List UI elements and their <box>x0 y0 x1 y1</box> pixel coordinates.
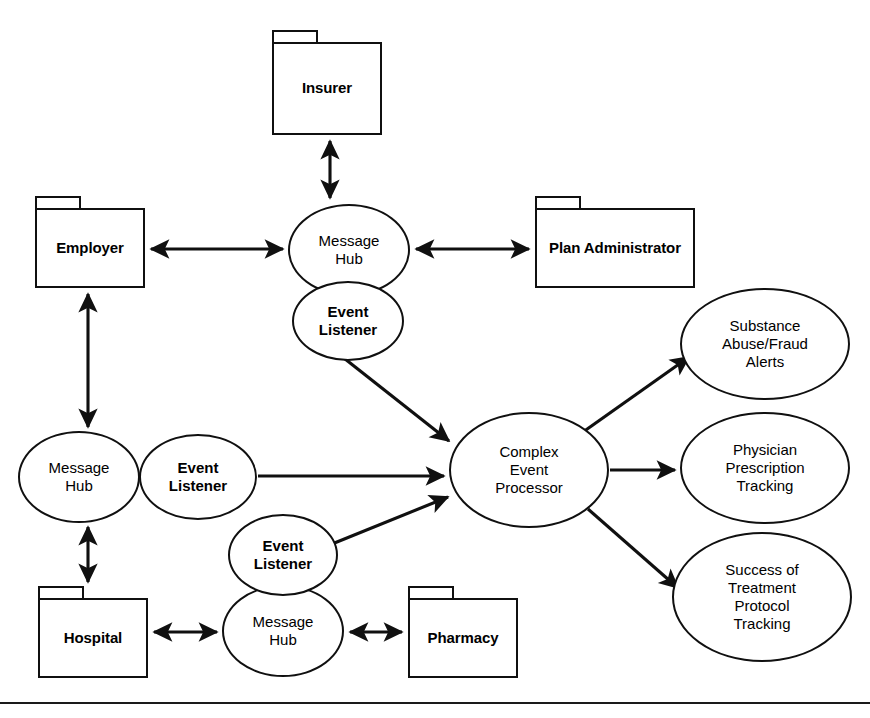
node-label: Physician Prescription Tracking <box>721 441 808 495</box>
node-label: Substance Abuse/Fraud Alerts <box>718 317 812 371</box>
node-label: Success of Treatment Protocol Tracking <box>721 561 802 633</box>
ellipse-node-physician-prescription-tracking: Physician Prescription Tracking <box>680 412 850 524</box>
edge-cep-protocol <box>588 509 678 588</box>
package-node-pharmacy: Pharmacy <box>408 586 518 678</box>
diagram-canvas: Insurer Employer Plan Administrator Hosp… <box>0 0 870 718</box>
package-label: Insurer <box>302 80 352 97</box>
ellipse-node-message-hub-bottom: Message Hub <box>222 585 344 677</box>
node-label: Event Listener <box>315 303 381 339</box>
package-body: Employer <box>35 208 145 288</box>
package-body: Plan Administrator <box>535 208 695 288</box>
ellipse-node-event-listener-top: Event Listener <box>292 281 404 361</box>
node-label: Event Listener <box>250 537 316 573</box>
package-body: Pharmacy <box>408 598 518 678</box>
edge-listenerbot-cep <box>332 497 448 544</box>
edge-listenertop-cep <box>340 355 449 441</box>
package-node-insurer: Insurer <box>272 30 382 135</box>
ellipse-node-substance-abuse-fraud-alerts: Substance Abuse/Fraud Alerts <box>680 288 850 400</box>
package-node-plan-administrator: Plan Administrator <box>535 196 695 288</box>
package-label: Pharmacy <box>428 630 499 647</box>
ellipse-node-success-of-treatment-protocol-tracking: Success of Treatment Protocol Tracking <box>672 532 852 662</box>
package-label: Employer <box>56 240 124 257</box>
footer-divider <box>0 702 870 704</box>
edge-cep-alerts <box>583 357 689 432</box>
package-label: Hospital <box>64 630 122 647</box>
ellipse-node-message-hub-left: Message Hub <box>18 431 140 523</box>
package-node-hospital: Hospital <box>38 586 148 678</box>
package-node-employer: Employer <box>35 196 145 288</box>
node-label: Message Hub <box>249 613 318 649</box>
node-label: Message Hub <box>45 459 114 495</box>
node-label: Message Hub <box>315 232 384 268</box>
package-label: Plan Administrator <box>549 240 681 257</box>
ellipse-node-complex-event-processor: Complex Event Processor <box>449 412 609 528</box>
ellipse-node-event-listener-bottom: Event Listener <box>228 514 338 596</box>
node-label: Event Listener <box>165 459 231 495</box>
package-body: Insurer <box>272 42 382 135</box>
ellipse-node-event-listener-left: Event Listener <box>139 434 257 520</box>
package-body: Hospital <box>38 598 148 678</box>
node-label: Complex Event Processor <box>491 443 567 497</box>
